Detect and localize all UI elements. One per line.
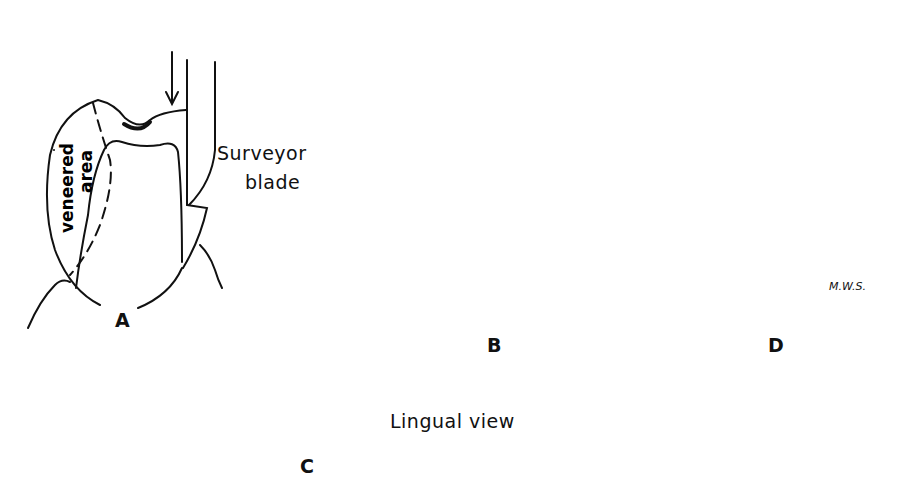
panel-label-a: A xyxy=(115,309,130,331)
lingual-view-label: Lingual view xyxy=(390,410,515,432)
area-label: area xyxy=(77,150,95,193)
veneered-label: veneered xyxy=(58,143,76,233)
panel-label-d: D xyxy=(768,334,784,356)
panel-label-c: C xyxy=(300,455,314,477)
panel-label-b: B xyxy=(487,334,501,356)
surveyor-label-line1: Surveyor xyxy=(217,142,307,164)
surveyor-label-line2: blade xyxy=(245,171,300,193)
artist-signature: M.W.S. xyxy=(829,280,866,293)
